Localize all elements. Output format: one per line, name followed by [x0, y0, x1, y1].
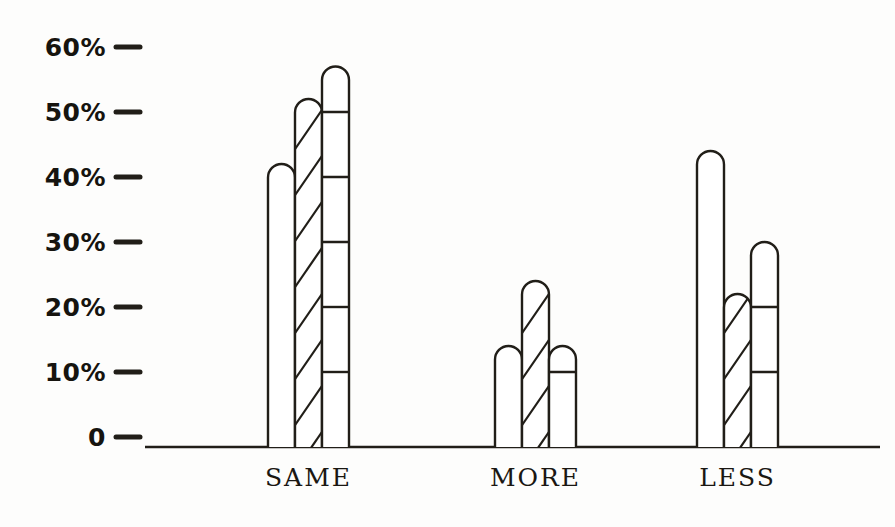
x-axis-label-less: LESS — [663, 463, 813, 492]
x-axis-label-same: SAME — [234, 463, 384, 492]
bar-less-horizontal — [751, 242, 778, 447]
y-axis-label-10pct: 10% — [20, 358, 106, 387]
bar-fill — [322, 67, 349, 448]
bar-fill — [295, 99, 322, 447]
chart-canvas — [0, 0, 895, 527]
y-axis-tick-marks — [116, 47, 140, 437]
bar-chart: 60%50%40%30%20%10%0 SAMEMORELESS — [0, 0, 895, 527]
bar-less-diagonal — [722, 199, 753, 474]
y-axis-label-30pct: 30% — [20, 228, 106, 257]
bar-fill — [495, 346, 522, 447]
bar-same-plain — [268, 164, 295, 447]
bar-more-horizontal — [549, 346, 576, 447]
y-axis-label-50pct: 50% — [20, 98, 106, 127]
bar-fill — [268, 164, 295, 447]
bar-more-plain — [495, 346, 522, 447]
bars-layer — [268, 15, 778, 474]
bar-more-diagonal — [520, 199, 551, 474]
bar-fill — [697, 151, 724, 447]
bar-less-plain — [697, 151, 724, 447]
y-axis-label-40pct: 40% — [20, 163, 106, 192]
y-axis-label-60pct: 60% — [20, 33, 106, 62]
bar-fill — [549, 346, 576, 447]
bar-same-diagonal — [293, 15, 324, 474]
y-axis-label-0: 0 — [20, 423, 106, 452]
bar-fill — [522, 281, 549, 447]
bar-fill — [724, 294, 751, 447]
bar-fill — [751, 242, 778, 447]
x-axis-label-more: MORE — [461, 463, 611, 492]
y-axis-label-20pct: 20% — [20, 293, 106, 322]
bar-same-horizontal — [322, 67, 349, 448]
